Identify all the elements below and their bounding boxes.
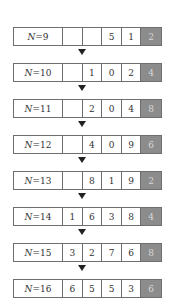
digit-row: N=1665536 [13, 279, 162, 298]
digit-cell: 2 [83, 100, 103, 117]
row-label-value: =11 [32, 104, 51, 114]
digit-cell [83, 28, 103, 45]
digit-row: N=9512 [13, 27, 162, 46]
digit-cell: 8 [83, 172, 103, 189]
highlighted-digit-cell: 8 [141, 100, 161, 117]
digit-row: N=1416384 [13, 207, 162, 226]
digit-cell: 3 [122, 280, 142, 297]
highlighted-digit-cell: 2 [141, 172, 161, 189]
digit-cell: 1 [83, 64, 103, 81]
digit-cell: 9 [122, 172, 142, 189]
digit-row: N=138192 [13, 171, 162, 190]
down-triangle-icon [78, 157, 86, 163]
digit-row: N=1532768 [13, 243, 162, 262]
row-label-variable: N [25, 104, 33, 114]
highlighted-digit-cell: 8 [141, 244, 161, 261]
digit-cell: 4 [83, 136, 103, 153]
digit-cell [63, 136, 83, 153]
highlighted-digit-cell: 2 [141, 28, 161, 45]
row-label: N=9 [14, 28, 63, 45]
digit-cell: 3 [102, 208, 122, 225]
down-triangle-icon [78, 49, 86, 55]
digit-cell [63, 28, 83, 45]
digit-cell: 7 [102, 244, 122, 261]
row-label-value: =10 [32, 68, 51, 78]
row-label-value: =13 [32, 176, 51, 186]
digit-cell: 6 [63, 280, 83, 297]
digit-cell: 1 [122, 28, 142, 45]
row-label-variable: N [25, 212, 33, 222]
digit-cell: 5 [102, 28, 122, 45]
highlighted-digit-cell: 4 [141, 64, 161, 81]
row-label-variable: N [25, 68, 33, 78]
digit-cell: 2 [83, 244, 103, 261]
digit-cell: 0 [102, 136, 122, 153]
row-label: N=15 [14, 244, 63, 261]
digit-cell: 8 [122, 208, 142, 225]
down-triangle-icon [78, 85, 86, 91]
digit-cell: 5 [102, 280, 122, 297]
digit-row: N=112048 [13, 99, 162, 118]
row-label: N=11 [14, 100, 63, 117]
digit-cell: 9 [122, 136, 142, 153]
row-label: N=16 [14, 280, 63, 297]
digit-cell: 1 [102, 172, 122, 189]
digit-cell: 0 [102, 100, 122, 117]
digit-cell: 0 [102, 64, 122, 81]
digit-cell: 3 [63, 244, 83, 261]
digit-cell: 1 [63, 208, 83, 225]
down-triangle-icon [78, 229, 86, 235]
highlighted-digit-cell: 4 [141, 208, 161, 225]
digit-cell [63, 172, 83, 189]
digit-cell: 6 [122, 244, 142, 261]
digit-cell: 4 [122, 100, 142, 117]
row-label-value: =9 [35, 32, 48, 42]
row-label-value: =12 [32, 140, 51, 150]
row-label: N=13 [14, 172, 63, 189]
row-label-variable: N [27, 32, 35, 42]
digit-cell: 5 [83, 280, 103, 297]
highlighted-digit-cell: 6 [141, 280, 161, 297]
row-label: N=12 [14, 136, 63, 153]
row-label-value: =15 [32, 248, 51, 258]
digit-cell [63, 64, 83, 81]
digit-cell: 6 [83, 208, 103, 225]
row-label-value: =14 [32, 212, 51, 222]
down-triangle-icon [78, 121, 86, 127]
row-label-value: =16 [32, 284, 51, 294]
row-label-variable: N [25, 248, 33, 258]
digit-cell [63, 100, 83, 117]
down-triangle-icon [78, 193, 86, 199]
row-label: N=10 [14, 64, 63, 81]
digit-row: N=124096 [13, 135, 162, 154]
row-label: N=14 [14, 208, 63, 225]
digit-cell: 2 [122, 64, 142, 81]
row-label-variable: N [25, 140, 33, 150]
digit-row: N=101024 [13, 63, 162, 82]
row-label-variable: N [25, 176, 33, 186]
row-label-variable: N [25, 284, 33, 294]
highlighted-digit-cell: 6 [141, 136, 161, 153]
down-triangle-icon [78, 265, 86, 271]
